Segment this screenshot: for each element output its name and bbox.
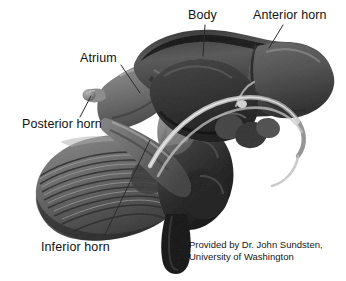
credit-line-2: University of Washington — [189, 251, 323, 263]
label-body: Body — [188, 9, 217, 22]
label-posterior-horn: Posterior horn — [22, 118, 102, 131]
attribution-credit: Provided by Dr. John Sundsten, Universit… — [189, 239, 323, 262]
figure-canvas: Body Anterior horn Atrium Posterior horn… — [0, 0, 346, 281]
label-inferior-horn: Inferior horn — [41, 241, 110, 254]
label-anterior-horn: Anterior horn — [253, 9, 327, 22]
label-atrium: Atrium — [80, 52, 117, 65]
credit-line-1: Provided by Dr. John Sundsten, — [189, 239, 323, 251]
